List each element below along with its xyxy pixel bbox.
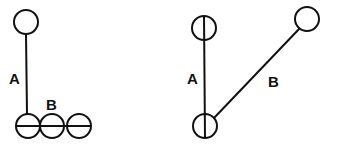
diagram-left [14, 10, 91, 138]
right-segment-b [214, 28, 300, 118]
diagram-right [192, 7, 319, 138]
right-label-b: B [268, 73, 279, 90]
left-top-circle [14, 10, 38, 34]
diagram-canvas: A B A B [0, 0, 337, 152]
left-label-a: A [9, 70, 20, 87]
right-end-circle [295, 7, 319, 31]
left-label-b: B [46, 96, 57, 113]
left-segment-a [26, 34, 27, 114]
right-segment-a [204, 16, 205, 138]
right-label-a: A [187, 70, 198, 87]
